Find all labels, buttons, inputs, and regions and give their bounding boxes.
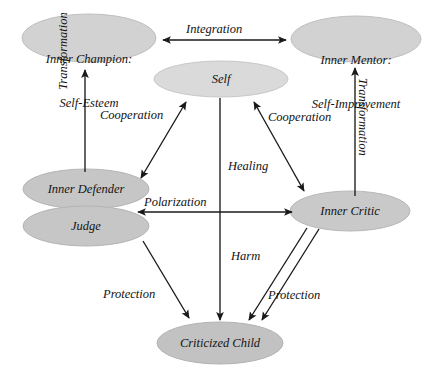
node-inner-champion[interactable] [22,14,156,62]
diagram-canvas: Inner Champion: Self-Esteem Inner Mentor… [0,0,434,375]
edge-label-polarization: Polarization [144,195,207,210]
node-judge[interactable] [23,206,149,246]
edge-label-transformation-right: Transformation [355,78,370,156]
edge-label-harm: Harm [231,249,260,264]
edge-protection-right-arrow[interactable] [262,229,319,320]
node-self[interactable] [154,61,288,97]
edge-label-cooperation-right: Cooperation [268,110,331,125]
node-inner-mentor[interactable] [291,16,421,62]
node-inner-critic[interactable] [290,191,410,231]
edge-protection-left-arrow[interactable] [143,241,189,318]
node-inner-defender[interactable] [23,169,149,209]
edge-harm-arrow[interactable] [249,228,307,320]
node-criticized-child[interactable] [157,322,283,364]
edge-label-protection-left: Protection [103,287,155,302]
edge-label-integration: Integration [186,22,242,37]
edge-label-transformation-left: Transformation [56,12,71,90]
node-ellipses [22,14,421,364]
edge-label-cooperation-left: Cooperation [100,108,163,123]
edge-label-protection-right: Protection [268,288,320,303]
edge-label-healing: Healing [228,159,268,174]
